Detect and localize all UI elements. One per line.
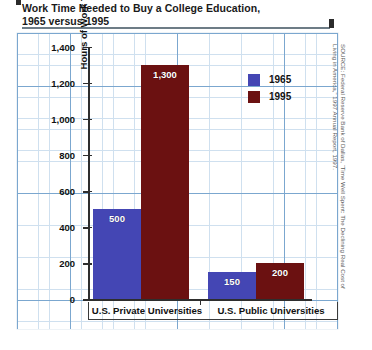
- y-axis-title: Hours of Work Time Needed to Buy a Colle…: [78, 0, 89, 92]
- y-axis-inner-tick: [88, 227, 92, 228]
- bar-1965-public: 150: [208, 272, 256, 299]
- chart-legend: 1965 1995: [248, 71, 291, 105]
- corner-mark-right-icon: [329, 19, 334, 28]
- y-axis-tick-label: 800: [59, 150, 75, 161]
- x-axis-label-public: U.S. Public Universities: [205, 302, 337, 319]
- legend-label-1995: 1995: [269, 91, 291, 102]
- legend-swatch-1965: [248, 74, 260, 86]
- legend-item-1995: 1995: [248, 88, 291, 105]
- y-axis-tick-label: 200: [59, 258, 75, 269]
- y-axis-tick-label: 1,400: [51, 42, 75, 53]
- bar-1995-public: 200: [256, 263, 304, 299]
- page-title: Work Time Needed to Buy a College Educat…: [22, 2, 332, 28]
- legend-item-1965: 1965: [248, 71, 291, 88]
- legend-swatch-1995: [248, 91, 260, 103]
- y-axis-tick-label: 1,200: [51, 78, 75, 89]
- bar-value-label: 150: [208, 276, 256, 287]
- x-axis-category-labels: U.S. Private Universities U.S. Public Un…: [88, 302, 338, 320]
- y-axis-tick-label: 1,000: [51, 114, 75, 125]
- y-axis-inner-tick: [88, 299, 92, 300]
- y-axis-tick-label: 0: [70, 294, 75, 305]
- chart-title-block: Work Time Needed to Buy a College Educat…: [22, 2, 332, 28]
- x-axis-label-private: U.S. Private Universities: [89, 302, 205, 319]
- source-note: SOURCE: Federal Reserve Bank of Dallas, …: [332, 44, 347, 334]
- y-axis-inner-tick: [88, 155, 92, 156]
- bar-value-label: 200: [256, 267, 304, 278]
- y-axis-inner-tick: [88, 83, 92, 84]
- y-axis-tick-label: 600: [59, 186, 75, 197]
- legend-label-1965: 1965: [269, 74, 291, 85]
- bar-value-label: 1,300: [141, 69, 189, 80]
- bar-1995-private: 1,300: [141, 65, 189, 299]
- y-axis-inner-tick: [88, 191, 92, 192]
- bar-1965-private: 500: [93, 209, 141, 299]
- y-axis-tick-label: 400: [59, 222, 75, 233]
- corner-mark-left-icon: [16, 0, 21, 5]
- y-axis-inner-tick: [88, 47, 92, 48]
- bar-value-label: 500: [93, 213, 141, 224]
- title-divider: [22, 27, 330, 29]
- y-axis-inner-tick: [88, 263, 92, 264]
- y-axis-inner-tick: [88, 119, 92, 120]
